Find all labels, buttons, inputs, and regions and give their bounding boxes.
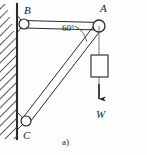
label-joint-b: B [24,5,31,16]
label-joint-c: C [23,130,30,141]
statics-figure: B A C W 60° a) [0,0,147,155]
weight-block [91,55,108,77]
wall-hatching [0,0,18,155]
pin-joint-b [19,19,29,29]
member-ca [24,23,103,123]
figure-caption: a) [62,138,69,147]
angle-arc-60 [75,26,87,42]
label-weight-w: W [96,109,105,120]
pin-joint-c [21,116,31,126]
label-angle-60: 60° [62,24,75,33]
label-joint-a: A [100,3,107,14]
